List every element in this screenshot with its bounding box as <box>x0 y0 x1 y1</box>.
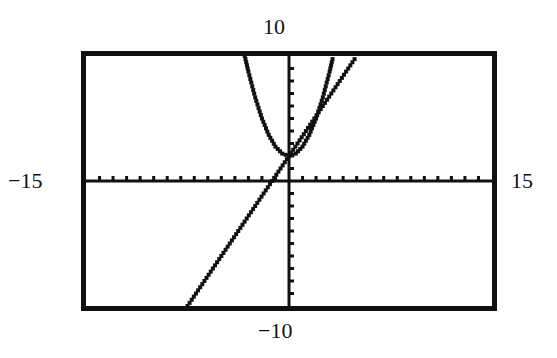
calculator-graph-screen <box>81 51 497 311</box>
axes <box>86 56 492 306</box>
ymin-label: −10 <box>258 320 292 342</box>
plot-area <box>86 56 492 306</box>
xmax-label: 15 <box>511 170 533 192</box>
ymax-label: 10 <box>263 16 285 38</box>
xmin-label: −15 <box>8 170 42 192</box>
